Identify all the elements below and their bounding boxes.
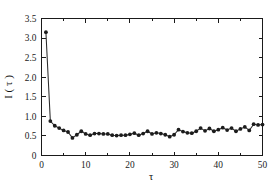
x-axis-label: τ — [149, 171, 153, 182]
data-point — [155, 131, 159, 135]
data-point — [199, 126, 203, 130]
data-point — [225, 128, 229, 132]
data-point — [84, 132, 88, 136]
data-point — [239, 127, 243, 131]
series-line — [46, 32, 263, 138]
data-point — [119, 133, 123, 137]
data-point — [168, 135, 172, 139]
data-point — [44, 30, 48, 34]
y-axis-label: I ( τ ) — [2, 75, 15, 99]
data-point — [66, 130, 70, 134]
data-point — [57, 126, 61, 130]
data-point — [146, 129, 150, 133]
y-tick-label: 3.5 — [25, 14, 37, 24]
data-point — [93, 132, 97, 136]
y-tick-label: 2.5 — [25, 53, 37, 63]
data-point — [221, 126, 225, 130]
data-point — [137, 133, 141, 137]
y-tick-label: 3.0 — [25, 33, 37, 43]
y-tick-label: 1.0 — [25, 112, 37, 122]
figure-container: 01020304050 00.51.01.52.02.53.03.5 τ I (… — [0, 0, 278, 185]
x-tick-label: 10 — [81, 160, 91, 170]
y-tick-label: 0 — [32, 151, 37, 161]
data-point — [261, 123, 265, 127]
data-point — [247, 129, 251, 133]
data-point — [208, 127, 212, 131]
data-point — [115, 134, 119, 138]
x-tick-label: 30 — [169, 160, 179, 170]
data-point — [177, 128, 181, 132]
x-tick-label: 50 — [258, 160, 268, 170]
data-point — [163, 133, 167, 137]
data-point — [150, 132, 154, 136]
data-point — [62, 129, 66, 133]
y-tick-label: 2.0 — [25, 73, 37, 83]
y-tick-label: 1.5 — [25, 92, 37, 102]
data-point — [106, 132, 110, 136]
data-point — [132, 131, 136, 135]
data-point — [252, 122, 256, 126]
data-point — [97, 132, 101, 136]
data-point — [172, 133, 176, 137]
y-tick-label: 0.5 — [25, 131, 37, 141]
series-markers — [44, 30, 264, 139]
data-point — [71, 136, 75, 140]
data-point — [101, 132, 105, 136]
data-point — [185, 131, 189, 135]
data-point — [181, 130, 185, 134]
data-point — [234, 129, 238, 133]
data-point — [243, 125, 247, 129]
data-point — [110, 133, 114, 137]
data-point — [194, 129, 198, 133]
y-axis-tick-labels: 00.51.01.52.02.53.03.5 — [25, 14, 37, 161]
data-point — [141, 132, 145, 136]
x-tick-label: 20 — [125, 160, 135, 170]
data-point — [79, 129, 83, 133]
data-point — [212, 129, 216, 133]
data-point — [203, 129, 207, 133]
data-point — [256, 123, 260, 127]
data-point — [88, 133, 92, 137]
x-tick-label: 0 — [39, 160, 44, 170]
data-point — [53, 124, 57, 128]
data-point — [159, 132, 163, 136]
data-point — [128, 132, 132, 136]
x-axis-tick-labels: 01020304050 — [39, 160, 267, 170]
data-point — [216, 128, 220, 132]
x-tick-label: 40 — [214, 160, 224, 170]
data-point — [190, 131, 194, 135]
data-point — [230, 126, 234, 130]
data-point — [75, 133, 79, 137]
data-series-layer — [44, 30, 264, 139]
data-point — [124, 133, 128, 137]
mutual-information-plot: 01020304050 00.51.01.52.02.53.03.5 τ I (… — [0, 0, 278, 185]
data-point — [48, 119, 52, 123]
